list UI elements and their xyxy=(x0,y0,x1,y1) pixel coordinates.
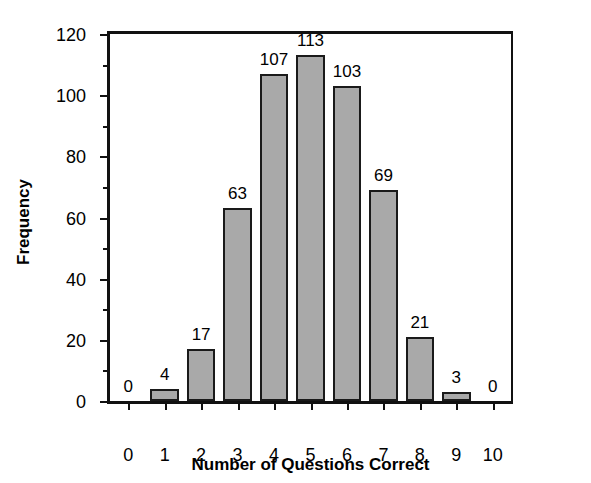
y-axis-tick-minor xyxy=(103,309,110,311)
y-axis-tick-label: 80 xyxy=(40,147,86,168)
bar-value-label: 103 xyxy=(317,62,377,82)
x-axis-tick xyxy=(420,401,422,410)
bar-value-label: 4 xyxy=(135,365,195,385)
x-axis-tick xyxy=(274,401,276,410)
y-axis-tick-major: 60 xyxy=(100,218,110,220)
bar-value-label: 113 xyxy=(281,31,341,51)
y-axis-tick-major: 100 xyxy=(100,95,110,97)
histogram-chart: Frequency 020406080100120001421736341075… xyxy=(0,0,591,483)
y-axis-tick-label: 100 xyxy=(40,86,86,107)
bar-value-label: 107 xyxy=(244,50,304,70)
x-axis-tick xyxy=(347,401,349,410)
y-axis-tick-minor xyxy=(103,126,110,128)
x-axis-tick xyxy=(238,401,240,410)
bar-value-label: 69 xyxy=(353,166,413,186)
y-axis-tick-label: 40 xyxy=(40,270,86,291)
bar xyxy=(187,349,215,401)
x-axis-tick xyxy=(128,401,130,410)
bar-value-label: 63 xyxy=(208,184,268,204)
x-axis-tick xyxy=(311,401,313,410)
x-axis-tick xyxy=(493,401,495,410)
y-axis-tick-major: 80 xyxy=(100,156,110,158)
bar-value-label: 17 xyxy=(171,325,231,345)
bar xyxy=(296,55,324,401)
bar xyxy=(333,86,361,401)
bar xyxy=(369,190,397,401)
x-axis-title: Number of Questions Correct xyxy=(107,455,514,475)
bar-value-label: 0 xyxy=(463,377,523,397)
y-axis-tick-label: 20 xyxy=(40,331,86,352)
y-axis-tick-major: 40 xyxy=(100,279,110,281)
y-axis-title: Frequency xyxy=(14,152,34,292)
bar xyxy=(260,74,288,401)
x-axis-tick xyxy=(456,401,458,410)
y-axis-tick-minor xyxy=(103,187,110,189)
y-axis-tick-minor xyxy=(103,248,110,250)
y-axis-tick-label: 0 xyxy=(40,392,86,413)
bar xyxy=(150,389,178,401)
x-axis-tick xyxy=(165,401,167,410)
y-axis-tick-major: 120 xyxy=(100,34,110,36)
x-axis-tick xyxy=(201,401,203,410)
y-axis-tick-minor xyxy=(103,370,110,372)
bar xyxy=(223,208,251,401)
bar-value-label: 21 xyxy=(390,313,450,333)
x-axis-tick xyxy=(383,401,385,410)
y-axis-tick-label: 60 xyxy=(40,209,86,230)
y-axis-tick-major: 0 xyxy=(100,401,110,403)
y-axis-tick-minor xyxy=(103,65,110,67)
y-axis-tick-label: 120 xyxy=(40,25,86,46)
y-axis-tick-major: 20 xyxy=(100,340,110,342)
plot-frame: 0204060801001200014217363410751136103769… xyxy=(107,31,513,404)
plot-area: 0204060801001200014217363410751136103769… xyxy=(110,34,511,401)
